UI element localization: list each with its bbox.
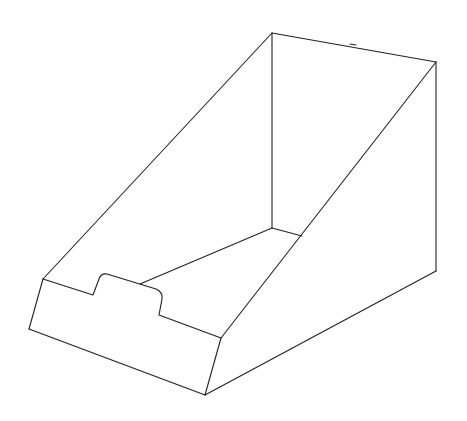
right-bottom-edge [205, 271, 436, 395]
top-back-edge [272, 33, 436, 62]
display-box-drawing [0, 0, 467, 421]
front-panel-right-edge [205, 338, 221, 395]
front-panel-left-edge [29, 279, 43, 329]
top-seam-detail [350, 44, 356, 45]
inner-floor-back-edge [272, 228, 302, 236]
front-panel-bottom-edge [29, 329, 205, 395]
display-box-svg [0, 0, 467, 421]
front-panel-top-with-tab [43, 274, 221, 338]
inner-floor-left-edge [140, 228, 272, 284]
right-inner-slant-edge [221, 62, 436, 338]
